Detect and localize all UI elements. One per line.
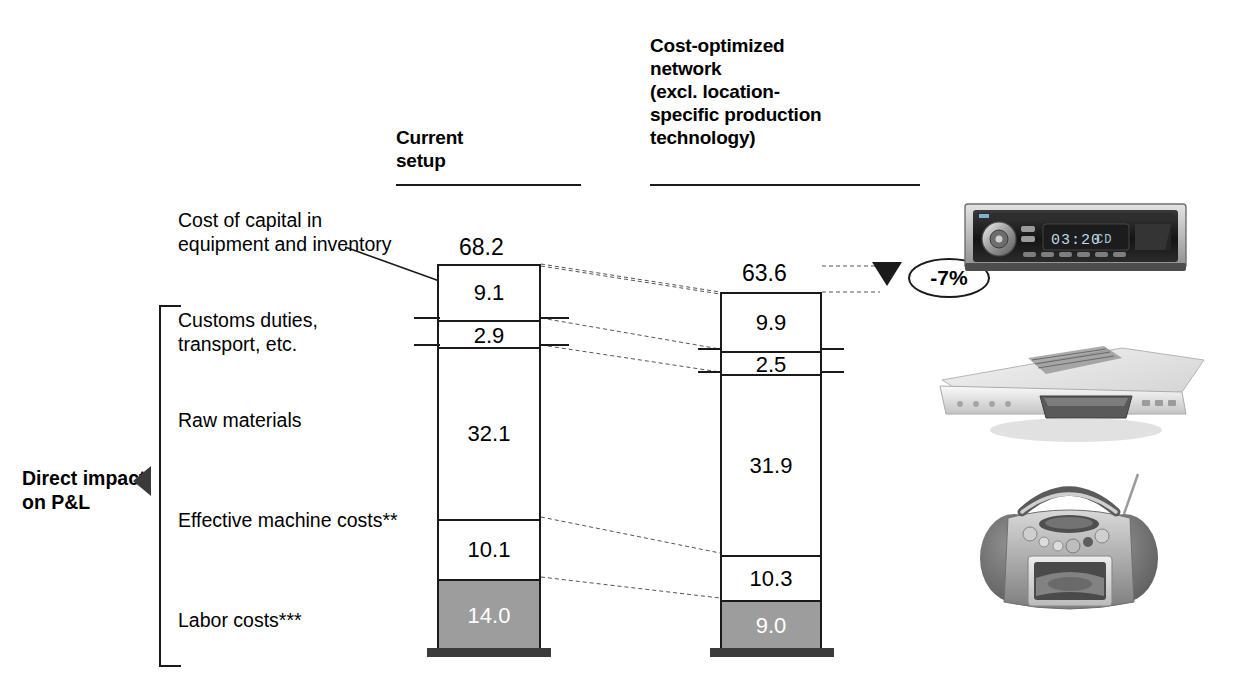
segment-label-cost-of-capital: Cost of capital in equipment and invento… [178,208,393,256]
bar-segment-value: 10.1 [468,539,511,561]
direct-impact-pointer-icon [133,466,151,496]
segment-tick-right-bar-right-lower [820,371,844,373]
column-header-current-setup: Current setup [396,126,596,172]
bar-segment-raw-optimized[interactable]: 31.9 [722,374,820,555]
direct-impact-bracket [150,305,176,667]
bar-segment-capital-optimized[interactable]: 9.9 [722,294,820,351]
segment-label-effective-machine-costs: Effective machine costs** [178,508,408,532]
bar-segment-value: 9.9 [756,312,787,334]
bar-segment-value: 14.0 [468,605,511,627]
bar-segment-value: 2.9 [474,325,505,347]
bar-total-current: 68.2 [459,236,504,259]
bar-segment-value: 10.3 [750,568,793,590]
segment-tick-right-upper [539,317,569,319]
bar-segment-customs-current[interactable]: 2.9 [439,320,539,347]
column-header-current-rule [396,184,581,186]
bar-segment-value: 9.1 [474,282,505,304]
bar-segment-value: 2.5 [756,354,787,376]
down-arrow-icon [872,262,902,286]
bar-segment-value: 31.9 [750,455,793,477]
svg-text:CD: CD [1096,233,1112,247]
bracket-top-arm [159,305,181,307]
photo-car-stereo-head-unit: 03:20 CD [963,200,1188,278]
column-header-cost-optimized-text: Cost-optimized network (excl. location- … [650,34,910,149]
bar-segment-raw-current[interactable]: 32.1 [439,347,539,519]
bar-segment-value: 32.1 [468,423,511,445]
bar-segment-capital-current[interactable]: 9.1 [439,266,539,320]
bar-baseline-optimized [710,648,834,657]
segment-tick-left-upper [414,317,440,319]
chart-canvas: Current setup Cost-optimized network (ex… [0,0,1240,683]
stacked-bar-current-setup[interactable]: 9.1 2.9 32.1 10.1 14.0 [437,264,541,648]
column-header-current-setup-text: Current setup [396,126,596,172]
segment-label-raw-materials: Raw materials [178,408,393,432]
segment-label-customs-duties: Customs duties, transport, etc. [178,308,393,356]
bar-segment-value: 9.0 [756,615,787,637]
segment-tick-right-bar-left-upper [698,348,722,350]
bar-segment-labor-optimized[interactable]: 9.0 [722,600,820,650]
bar-total-optimized: 63.6 [742,262,787,285]
bar-segment-customs-optimized[interactable]: 2.5 [722,351,820,374]
bar-segment-labor-current[interactable]: 14.0 [439,579,539,650]
segment-label-labor-costs: Labor costs*** [178,608,393,632]
photo-dvd-player [936,338,1212,448]
segment-tick-left-lower [414,344,440,346]
segment-tick-right-bar-left-lower [698,371,722,373]
photo-boombox-cd-radio [978,466,1160,626]
column-header-optimized-rule [650,184,920,186]
svg-text:03:20: 03:20 [1051,232,1101,249]
bar-segment-machine-current[interactable]: 10.1 [439,519,539,579]
stacked-bar-cost-optimized[interactable]: 9.9 2.5 31.9 10.3 9.0 [720,292,822,648]
column-header-cost-optimized-network: Cost-optimized network (excl. location- … [650,34,910,149]
bracket-spine [159,305,161,667]
bracket-bottom-arm [159,665,181,667]
bar-segment-machine-optimized[interactable]: 10.3 [722,555,820,600]
segment-tick-right-bar-right-upper [820,348,844,350]
bar-baseline-current [427,648,551,657]
segment-tick-right-lower [539,344,569,346]
